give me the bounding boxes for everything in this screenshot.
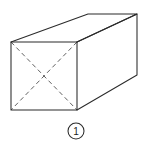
figure-container: 1 (0, 0, 151, 150)
box-diagram-svg: 1 (0, 0, 151, 150)
callout-label: 1 (73, 126, 79, 137)
